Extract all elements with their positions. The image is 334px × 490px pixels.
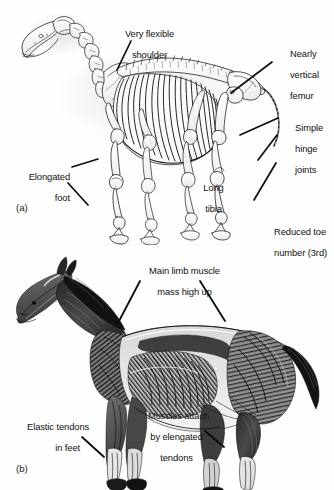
panel-tag-b: (b) — [16, 463, 28, 474]
label-muscles-attach-by-tendons: Muscles attach by elengated tendons — [133, 400, 205, 474]
label-line: hinge — [295, 143, 317, 154]
label-line: tibia — [205, 203, 222, 214]
figure-root: Very flexible shoulder Nearly vertical f… — [0, 0, 334, 490]
label-line: Main limb muscle — [149, 265, 220, 276]
label-line: Simple — [295, 122, 323, 133]
label-elongated-foot: Elongated foot — [4, 161, 70, 214]
label-line: vertical — [290, 69, 319, 80]
label-line: Elastic tendons — [27, 421, 89, 432]
label-line: foot — [55, 192, 70, 203]
label-line: Muscles attach — [148, 410, 209, 421]
panel-b-musculature: Main limb muscle mass high up Elastic te… — [0, 245, 334, 490]
label-line: Long — [203, 182, 223, 193]
label-elastic-tendons-in-feet: Elastic tendons in feet — [12, 411, 80, 464]
label-line: Very flexible — [125, 28, 174, 39]
label-line: Reduced toe — [274, 226, 326, 237]
label-line: by elengated — [150, 431, 203, 442]
label-line: joints — [295, 164, 316, 175]
label-very-flexible-shoulder: Very flexible shoulder — [106, 18, 178, 71]
label-simple-hinge-joints: Simple hinge joints — [280, 112, 334, 186]
label-line: Nearly — [290, 48, 317, 59]
label-line: shoulder — [132, 49, 167, 60]
panel-a-skeleton: Very flexible shoulder Nearly vertical f… — [0, 0, 334, 245]
label-line: tendons — [160, 452, 193, 463]
label-line: Elongated — [29, 171, 70, 182]
label-line: femur — [290, 90, 313, 101]
panel-tag-a: (a) — [16, 202, 28, 213]
label-line: mass high up — [157, 286, 212, 297]
label-line: in feet — [55, 442, 80, 453]
label-nearly-vertical-femur: Nearly vertical femur — [275, 38, 333, 112]
label-long-tibia: Long tibia — [187, 172, 225, 225]
label-main-limb-muscle-mass: Main limb muscle mass high up — [124, 255, 230, 308]
